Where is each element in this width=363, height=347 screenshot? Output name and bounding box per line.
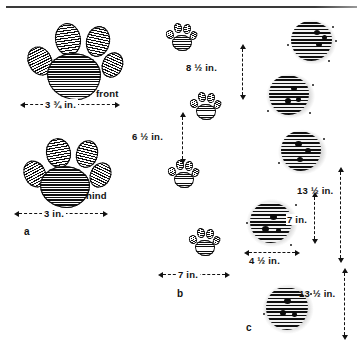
- panel-a-identifier: a: [24, 226, 30, 237]
- group-spacing-dimension-c: [310, 192, 319, 244]
- snow-toe-mark: [314, 30, 320, 35]
- arrow-down-icon: [338, 258, 344, 263]
- snow-speck: [263, 313, 265, 315]
- trail-paw-print: [163, 23, 199, 55]
- stride-dimension-lower-b: [178, 112, 187, 164]
- track-illustration-figure: front 3 ¾ in. hind 3 in. a: [0, 0, 363, 347]
- hind-paw-label: hind: [86, 190, 107, 201]
- dimension-line: [242, 49, 243, 95]
- snow-toe-mark: [280, 310, 286, 316]
- front-paw-label: front: [96, 88, 119, 99]
- snow-speck: [278, 162, 280, 164]
- snow-speck: [328, 60, 330, 62]
- panel-c-identifier: c: [246, 322, 252, 333]
- stride-lower-label-b: 6 ½ in.: [132, 131, 163, 142]
- front-paw-width-label: 3 ¾ in.: [43, 99, 78, 110]
- heel-pad: [195, 240, 215, 256]
- stride-lower-label-c: 13 ½ in.: [299, 288, 335, 299]
- snow-toe-mark: [322, 35, 327, 40]
- snow-toe-mark: [291, 86, 297, 91]
- heel-pad: [172, 35, 192, 51]
- arrow-right-icon: [295, 250, 300, 256]
- straddle-label-b: 7 in.: [176, 269, 200, 280]
- snow-toe-mark: [262, 226, 269, 232]
- stride-dimension-upper-c: [336, 167, 345, 263]
- snow-toe-mark: [297, 157, 303, 162]
- stride-upper-label-b: 8 ½ in.: [186, 62, 217, 73]
- toe-pad: [173, 22, 183, 33]
- group-spacing-label-c: 7 in.: [286, 214, 308, 225]
- dimension-line: [340, 172, 341, 258]
- toe-pad: [53, 21, 83, 57]
- snow-toe-mark: [305, 148, 311, 153]
- snow-toe-mark: [270, 214, 277, 220]
- snow-speck: [309, 112, 311, 114]
- snow-toe-mark: [285, 98, 291, 104]
- heel-pad: [196, 104, 216, 120]
- snow-toe-mark: [296, 97, 301, 102]
- dimension-line: [249, 252, 295, 253]
- snow-speck: [332, 26, 334, 28]
- snow-speck: [290, 244, 292, 246]
- snow-track: [265, 72, 317, 120]
- arrow-down-icon: [342, 335, 348, 340]
- arrow-down-icon: [180, 159, 186, 164]
- track-width-label-c: 4 ½ in.: [249, 255, 280, 266]
- toe-pad: [44, 136, 74, 170]
- toe-pad: [197, 91, 207, 102]
- arrow-right-icon: [103, 211, 108, 217]
- heel-pad: [47, 53, 101, 100]
- trail-paw-print: [186, 228, 222, 260]
- snow-track: [277, 128, 329, 176]
- hind-paw-print: [16, 138, 124, 210]
- snow-speck: [267, 110, 269, 112]
- stride-dimension-lower-c: [340, 268, 349, 340]
- hind-paw-width-label: 3 in.: [42, 208, 66, 219]
- arrow-down-icon: [240, 95, 246, 100]
- snow-track: [288, 18, 338, 66]
- arrow-right-icon: [225, 272, 230, 278]
- panel-b-identifier: b: [177, 288, 183, 299]
- dimension-line: [314, 197, 315, 239]
- trail-paw-print: [187, 92, 223, 124]
- snow-toe-mark: [292, 312, 297, 317]
- snow-speck: [312, 84, 314, 86]
- arrow-down-icon: [312, 239, 318, 244]
- snow-speck: [287, 44, 289, 46]
- arrow-right-icon: [115, 102, 120, 108]
- snow-speck: [323, 138, 325, 140]
- heel-pad: [40, 166, 90, 208]
- top-rule-divider: [6, 6, 357, 8]
- trail-paw-print: [165, 160, 201, 192]
- dimension-line: [182, 117, 183, 159]
- toe-pad: [196, 227, 206, 238]
- snow-toe-mark: [276, 228, 281, 233]
- stride-dimension-upper-b: [238, 44, 247, 100]
- snow-toe-mark: [295, 141, 302, 147]
- snow-speck: [295, 204, 297, 206]
- snow-speck: [335, 40, 337, 42]
- snow-toe-mark: [284, 298, 291, 304]
- heel-pad: [174, 172, 194, 188]
- snow-toe-mark: [316, 42, 322, 47]
- snow-speck: [246, 222, 248, 224]
- dimension-line: [344, 273, 345, 335]
